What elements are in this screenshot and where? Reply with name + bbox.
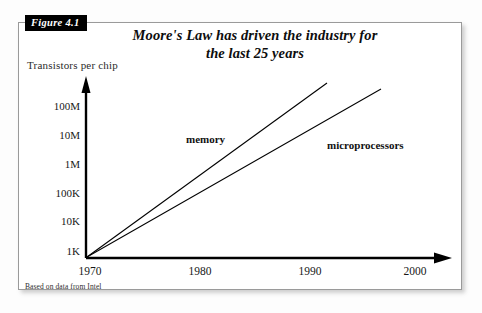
- y-tick-label: 10M: [36, 129, 80, 141]
- y-axis-caption: Transistors per chip: [27, 59, 118, 71]
- x-tick-2000: 2000: [392, 265, 438, 277]
- figure-root: Figure 4.1 Moore's Law has driven the in…: [0, 0, 482, 313]
- y-tick-label: 100M: [36, 100, 80, 112]
- chart-title-line-2: the last 25 years: [110, 44, 400, 62]
- y-tick-label: 100K: [36, 187, 80, 199]
- chart-title-line-1: Moore's Law has driven the industry for: [133, 27, 378, 43]
- source-footnote: Based on data from Intel: [25, 282, 102, 291]
- y-tick-label: 1M: [36, 158, 80, 170]
- y-tick-label: 1K: [36, 245, 80, 257]
- x-tick-1990: 1990: [287, 265, 333, 277]
- x-tick-1970: 1970: [67, 265, 113, 277]
- series-label-memory: memory: [186, 133, 225, 145]
- chart-title: Moore's Law has driven the industry for …: [110, 26, 400, 62]
- figure-number-tag: Figure 4.1: [25, 15, 87, 31]
- x-tick-1980: 1980: [177, 265, 223, 277]
- y-tick-label: 10K: [36, 215, 80, 227]
- series-label-microprocessors: microprocessors: [327, 139, 404, 151]
